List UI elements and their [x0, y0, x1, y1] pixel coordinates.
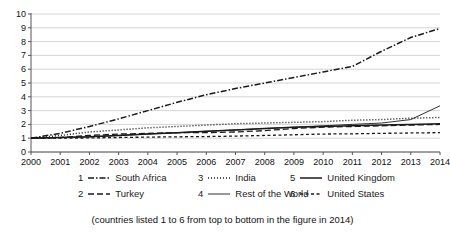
- x-axis-tick-label: 2010: [313, 158, 333, 167]
- x-axis-tick-label: 2005: [167, 158, 187, 167]
- legend-item-label: Turkey: [115, 188, 144, 199]
- legend-row: 2Turkey4Rest of the World6United States: [0, 188, 445, 203]
- legend-line-swatch: [299, 173, 323, 183]
- x-axis-tick-label: 2013: [401, 158, 421, 167]
- x-axis: 2000200120022003200420052006200720082009…: [0, 0, 445, 170]
- x-axis-tick-label: 2000: [21, 158, 41, 167]
- plot-area: 012345678910 200020012002200320042005200…: [0, 0, 445, 170]
- legend-item-number: 2: [78, 188, 83, 199]
- figure-caption: (countries listed 1 to 6 from top to bot…: [0, 214, 445, 226]
- x-axis-tick-label: 2009: [284, 158, 304, 167]
- legend-item-turkey[interactable]: 2Turkey: [78, 188, 144, 199]
- legend-item-number: 3: [198, 172, 203, 183]
- legend-line-swatch: [87, 189, 111, 199]
- x-axis-tick-label: 2001: [50, 158, 70, 167]
- legend-item-number: 6: [290, 188, 295, 199]
- legend-item-label: India: [235, 172, 256, 183]
- legend-line-swatch: [299, 189, 323, 199]
- x-axis-tick-label: 2011: [343, 158, 362, 167]
- x-axis-tick-label: 2007: [225, 158, 245, 167]
- x-axis-tick-label: 2003: [109, 158, 129, 167]
- legend-item-label: United States: [327, 188, 384, 199]
- legend-item-united-kingdom[interactable]: 5United Kingdom: [290, 172, 395, 183]
- legend-item-number: 5: [290, 172, 295, 183]
- x-axis-tick-label: 2008: [255, 158, 275, 167]
- legend-item-label: South Africa: [115, 172, 166, 183]
- legend-line-swatch: [87, 173, 111, 183]
- x-axis-tick-label: 2012: [372, 158, 392, 167]
- x-axis-tick-label: 2004: [138, 158, 158, 167]
- legend-line-swatch: [207, 189, 231, 199]
- chart-legend: 1South Africa3India5United Kingdom2Turke…: [0, 172, 445, 210]
- legend-item-number: 1: [78, 172, 83, 183]
- legend-line-swatch: [207, 173, 231, 183]
- legend-item-label: United Kingdom: [327, 172, 395, 183]
- legend-item-united-states[interactable]: 6United States: [290, 188, 384, 199]
- legend-item-number: 4: [198, 188, 203, 199]
- legend-item-south-africa[interactable]: 1South Africa: [78, 172, 167, 183]
- x-axis-tick-label: 2006: [196, 158, 216, 167]
- x-axis-tick-label: 2002: [79, 158, 99, 167]
- legend-row: 1South Africa3India5United Kingdom: [0, 172, 445, 187]
- legend-item-india[interactable]: 3India: [198, 172, 256, 183]
- x-axis-tick-label: 2014: [430, 158, 450, 167]
